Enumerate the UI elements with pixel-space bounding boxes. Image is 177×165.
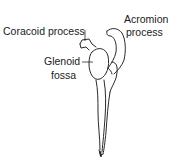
glenoid-fossa-label-line2: fossa — [51, 70, 76, 81]
acromion-process-label-line2: process — [126, 27, 163, 38]
acromion-process-label-line1: Acromion — [124, 14, 168, 25]
glenoid-fossa-label-line1: Glenoid — [44, 56, 80, 67]
coracoid-process-label: Coracoid process — [3, 26, 85, 37]
